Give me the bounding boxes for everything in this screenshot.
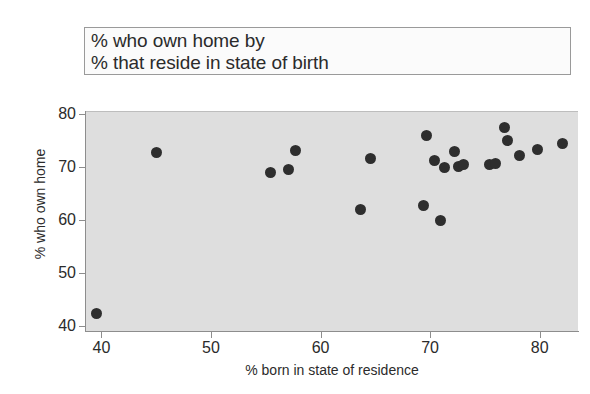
data-point xyxy=(283,164,294,175)
x-tick-label: 80 xyxy=(531,339,549,357)
data-point xyxy=(557,138,568,149)
data-point xyxy=(490,158,501,169)
data-point xyxy=(365,153,376,164)
y-tick-label: 40 xyxy=(58,317,76,335)
data-point xyxy=(514,150,525,161)
data-point xyxy=(421,130,432,141)
data-points-layer xyxy=(86,112,578,331)
x-tick-label: 40 xyxy=(93,339,111,357)
chart-title-line-2: % that reside in state of birth xyxy=(91,52,570,74)
plot-area xyxy=(85,111,578,331)
x-tick-mark xyxy=(430,332,431,338)
y-axis-title: % who own home xyxy=(32,94,48,314)
data-point xyxy=(502,135,513,146)
x-tick-mark xyxy=(211,332,212,338)
x-tick-mark xyxy=(540,332,541,338)
data-point xyxy=(439,162,450,173)
y-tick-mark xyxy=(79,220,85,221)
x-tick-mark xyxy=(101,332,102,338)
y-tick-mark xyxy=(79,273,85,274)
data-point xyxy=(265,167,276,178)
x-tick-label: 60 xyxy=(312,339,330,357)
y-tick-label: 80 xyxy=(58,105,76,123)
x-tick-mark xyxy=(321,332,322,338)
x-tick-label: 70 xyxy=(421,339,439,357)
data-point xyxy=(458,159,469,170)
chart-title-line-1: % who own home by xyxy=(91,30,570,52)
scatter-plot-figure: % who own home by % that reside in state… xyxy=(0,0,590,394)
y-tick-label: 50 xyxy=(58,264,76,282)
y-axis-line xyxy=(85,111,86,332)
data-point xyxy=(290,145,301,156)
data-point xyxy=(449,146,460,157)
data-point xyxy=(91,308,102,319)
data-point xyxy=(418,200,429,211)
y-tick-mark xyxy=(79,114,85,115)
x-axis-line xyxy=(85,331,579,332)
y-tick-mark xyxy=(79,167,85,168)
data-point xyxy=(355,204,366,215)
y-tick-mark xyxy=(79,326,85,327)
data-point xyxy=(499,122,510,133)
y-tick-label: 70 xyxy=(58,158,76,176)
data-point xyxy=(151,147,162,158)
chart-title-box: % who own home by % that reside in state… xyxy=(84,27,571,75)
data-point xyxy=(435,215,446,226)
y-tick-label: 60 xyxy=(58,211,76,229)
data-point xyxy=(429,155,440,166)
x-axis-title: % born in state of residence xyxy=(85,362,579,378)
x-tick-label: 50 xyxy=(202,339,220,357)
data-point xyxy=(532,144,543,155)
